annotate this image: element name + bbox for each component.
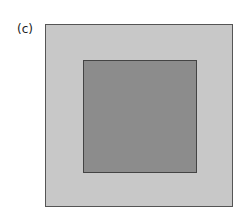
- panel-label: (c): [17, 22, 33, 36]
- inner-square: [83, 60, 197, 173]
